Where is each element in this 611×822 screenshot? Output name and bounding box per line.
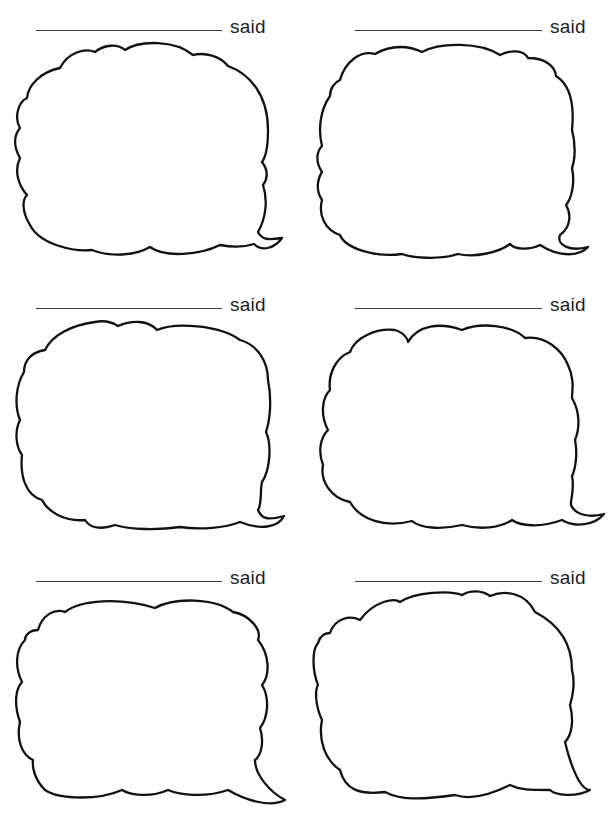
speech-bubble-worksheet: said said said said <box>0 0 611 822</box>
speech-text-area[interactable] <box>340 625 564 784</box>
